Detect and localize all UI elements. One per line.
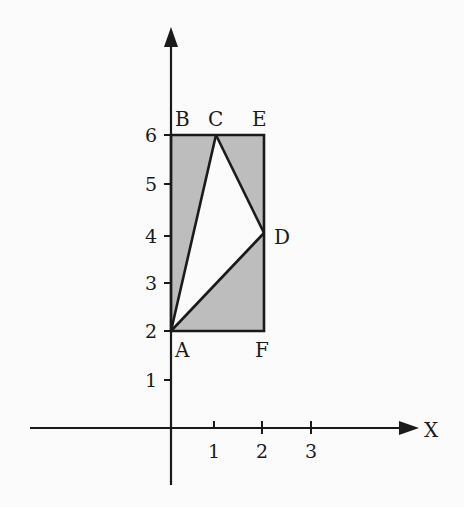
y-tick-label-1: 1 xyxy=(145,369,157,391)
coordinate-plane: X 1 2 3 1 2 3 4 5 6 B C E D A F xyxy=(0,0,464,507)
point-label-b: B xyxy=(175,107,190,131)
x-tick-label-3: 3 xyxy=(305,440,317,462)
x-axis-arrow-icon xyxy=(399,421,419,435)
point-label-f: F xyxy=(255,338,269,362)
x-tick-label-2: 2 xyxy=(256,440,268,462)
y-tick-label-3: 3 xyxy=(145,272,157,294)
point-label-c: C xyxy=(208,107,223,131)
point-label-d: D xyxy=(274,225,290,249)
diagram-canvas: X 1 2 3 1 2 3 4 5 6 B C E D A F xyxy=(0,0,464,507)
x-axis-label: X xyxy=(424,418,439,442)
y-axis-arrow-icon xyxy=(164,27,178,47)
x-tick-label-1: 1 xyxy=(208,440,220,462)
y-tick-label-5: 5 xyxy=(145,173,157,195)
y-tick-label-2: 2 xyxy=(145,320,157,342)
y-tick-label-6: 6 xyxy=(145,124,157,146)
y-tick-label-4: 4 xyxy=(145,225,157,247)
point-label-a: A xyxy=(174,338,190,362)
point-label-e: E xyxy=(252,107,267,131)
